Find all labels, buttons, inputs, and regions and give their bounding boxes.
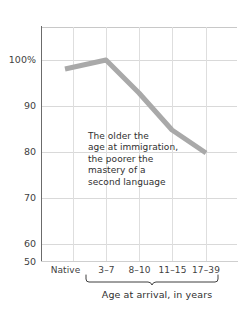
age-range-brace xyxy=(85,274,219,286)
x-axis-title-text: Age at arrival, in years xyxy=(36,289,212,300)
language-mastery-line-chart: 100% 90 80 70 60 50 Native 3–7 8–10 11–1… xyxy=(0,0,248,311)
x-axis-title: Age at arrival, in years xyxy=(0,289,248,300)
annotation-trend-note: The older the age at immigration, the po… xyxy=(88,131,188,188)
